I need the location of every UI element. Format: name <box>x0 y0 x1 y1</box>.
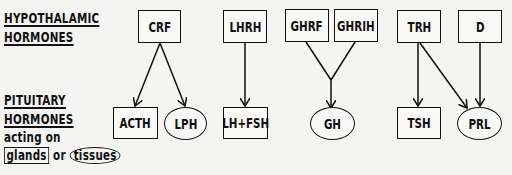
node-gh-label: GH <box>324 116 341 132</box>
node-lhrh-label: LHRH <box>229 19 261 35</box>
node-acth-label: ACTH <box>120 115 151 131</box>
node-prl-label: PRL <box>468 116 490 132</box>
node-gh: GH <box>310 107 355 140</box>
node-prl: PRL <box>457 107 502 140</box>
node-d: D <box>458 10 502 43</box>
node-ghrf-label: GHRF <box>291 18 323 34</box>
node-trh: TRH <box>397 10 441 43</box>
node-crf-label: CRF <box>148 19 171 35</box>
line-ghrf-merge <box>306 42 331 80</box>
node-lhfsh-label: LH+FSH <box>222 115 269 131</box>
node-d-label: D <box>476 19 485 35</box>
line-ghrih-merge <box>331 42 355 80</box>
node-lhrh: LHRH <box>223 10 267 43</box>
node-ghrf: GHRF <box>285 9 329 42</box>
node-acth: ACTH <box>113 107 158 139</box>
node-ghrih: GHRIH <box>334 9 378 42</box>
node-tsh: TSH <box>397 107 441 139</box>
node-trh-label: TRH <box>407 19 431 35</box>
node-ghrih-label: GHRIH <box>337 18 375 34</box>
node-lph-label: LPH <box>174 116 197 132</box>
node-lhfsh: LH+FSH <box>223 107 268 139</box>
arrow-trh-prl <box>420 43 467 108</box>
node-lph: LPH <box>164 107 207 140</box>
node-crf: CRF <box>138 10 181 43</box>
node-tsh-label: TSH <box>407 115 430 131</box>
arrow-crf-lph <box>160 43 185 106</box>
arrow-crf-acth <box>135 43 160 106</box>
